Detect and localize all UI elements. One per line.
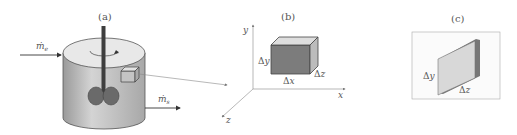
panel-b-label: (b) — [281, 11, 295, 22]
plate-dim-z-label: Δz — [459, 85, 471, 95]
panel-b-volume-element: (b) y x z Δy Δx Δz — [222, 11, 345, 125]
panel-c-surface-element: (c) Δy Δz — [412, 13, 500, 99]
control-volume-cube-small — [121, 67, 139, 82]
volume-element-cube — [271, 37, 318, 74]
stirrer-shaft — [102, 26, 106, 98]
panel-a-stirred-tank: (a) ṁe ṁs — [20, 11, 227, 129]
impeller-blade-left — [88, 87, 104, 105]
panel-a-label: (a) — [98, 11, 112, 22]
inflow-label: ṁe — [36, 41, 49, 52]
zoom-connector-line — [139, 74, 227, 85]
outflow-label: ṁs — [158, 94, 170, 105]
axis-x-label: x — [338, 90, 343, 100]
diagram-canvas: (a) ṁe ṁs (b) y x — [0, 0, 517, 135]
impeller-blade-right — [103, 87, 119, 105]
axis-y-label: y — [242, 25, 249, 35]
panel-c-label: (c) — [451, 13, 465, 24]
axis-z — [222, 89, 253, 117]
dim-z-label: Δz — [314, 69, 326, 79]
axis-z-label: z — [225, 115, 231, 125]
dim-y-label: Δy — [258, 56, 271, 66]
dim-x-label: Δx — [283, 76, 295, 86]
plate-dim-y-label: Δy — [423, 71, 436, 81]
